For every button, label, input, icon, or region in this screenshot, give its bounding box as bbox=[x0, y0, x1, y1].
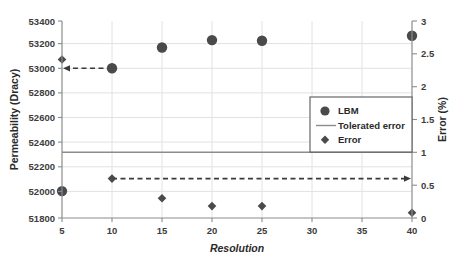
legend-item-lbm: LBM bbox=[320, 105, 358, 116]
y2-tick-label: 2.5 bbox=[421, 48, 435, 59]
x-tick-label: 40 bbox=[407, 225, 418, 236]
x-tick-label: 25 bbox=[257, 225, 268, 236]
y2-tick-label: 0 bbox=[421, 213, 426, 224]
y-tick-label: 52400 bbox=[29, 137, 55, 148]
y2-tick-label: 3 bbox=[421, 16, 426, 27]
y-axis-title: Permeability (Dracy) bbox=[8, 69, 20, 171]
x-tick-label: 35 bbox=[357, 225, 368, 236]
x-axis-tickmarks bbox=[62, 218, 412, 222]
legend-item-label: Tolerated error bbox=[338, 120, 405, 131]
y2-tick-label: 1 bbox=[421, 147, 427, 158]
chart-svg: 53400 53200 53000 52800 52600 52400 5220… bbox=[0, 0, 453, 266]
legend-circle-icon bbox=[320, 106, 329, 115]
data-point-lbm bbox=[157, 42, 167, 52]
y2-tick-label: 2 bbox=[421, 81, 426, 92]
y-axis-tick-labels: 53400 53200 53000 52800 52600 52400 5220… bbox=[29, 16, 55, 224]
y2-tick-label: 1.5 bbox=[421, 114, 435, 125]
data-point-lbm bbox=[207, 35, 217, 45]
permeability-error-chart: 53400 53200 53000 52800 52600 52400 5220… bbox=[0, 0, 453, 266]
data-point-error bbox=[258, 202, 267, 211]
y-tick-label: 51800 bbox=[29, 213, 55, 224]
y-tick-label: 52800 bbox=[29, 87, 55, 98]
chart-legend: LBM Tolerated error Error bbox=[310, 97, 412, 152]
y-tick-label: 53200 bbox=[29, 38, 55, 49]
y2-axis-title: Error (%) bbox=[436, 97, 448, 142]
y-tick-label: 52200 bbox=[29, 161, 55, 172]
data-point-lbm bbox=[257, 36, 267, 46]
data-point-error bbox=[208, 202, 217, 211]
x-tick-label: 5 bbox=[59, 225, 65, 236]
x-tick-label: 10 bbox=[107, 225, 118, 236]
y-tick-label: 52000 bbox=[29, 186, 55, 197]
y-tick-label: 52600 bbox=[29, 112, 55, 123]
legend-item-label: Error bbox=[338, 134, 362, 145]
y2-axis-tickmarks bbox=[412, 21, 417, 218]
data-point-error bbox=[108, 174, 117, 183]
y2-tick-label: 0.5 bbox=[421, 180, 435, 191]
y-tick-label: 53400 bbox=[29, 16, 55, 27]
data-point-error bbox=[158, 194, 167, 203]
x-axis-title: Resolution bbox=[210, 242, 264, 254]
x-tick-label: 15 bbox=[157, 225, 168, 236]
y2-axis-tick-labels: 3 2.5 2 1.5 1 0.5 0 bbox=[421, 16, 435, 224]
x-tick-label: 30 bbox=[307, 225, 318, 236]
x-axis-tick-labels: 5 10 15 20 25 30 35 40 bbox=[59, 225, 417, 236]
legend-item-label: LBM bbox=[338, 105, 359, 116]
data-point-lbm bbox=[107, 63, 117, 73]
x-tick-label: 20 bbox=[207, 225, 218, 236]
y-tick-label: 53000 bbox=[29, 63, 55, 74]
